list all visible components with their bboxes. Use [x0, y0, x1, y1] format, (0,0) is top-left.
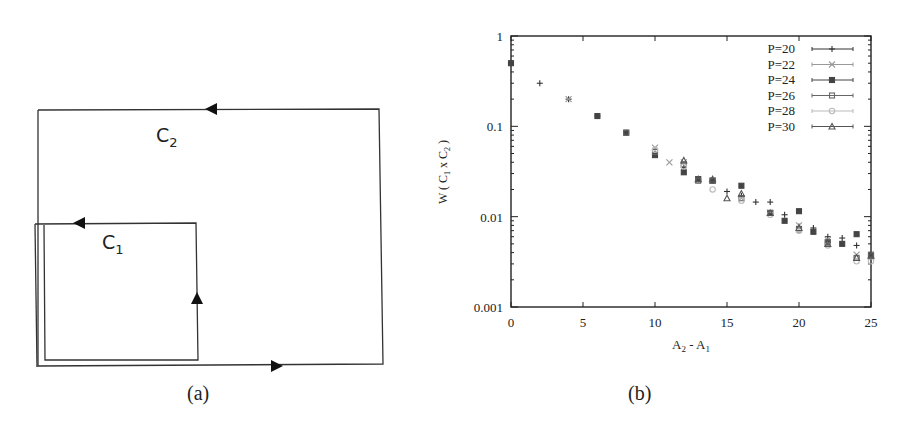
y-tick-label: 1 [497, 29, 504, 44]
svg-text:P=20: P=20 [767, 41, 795, 56]
x-tick-label: 0 [508, 315, 515, 330]
legend-entry: P=28 [767, 103, 853, 118]
svg-text:P=22: P=22 [767, 57, 795, 72]
scatter-chart: 05101520250.0010.010.11A2 - A1W ( C1 x C… [0, 0, 907, 425]
plot-frame [511, 36, 871, 307]
y-tick-label: 0.01 [480, 210, 503, 225]
legend-entry: P=26 [767, 88, 853, 103]
legend-entry: P=30 [767, 119, 853, 134]
x-tick-label: 15 [721, 315, 734, 330]
y-tick-label: 0.1 [487, 119, 503, 134]
y-axis-label: W ( C1 x C2 ) [436, 140, 452, 204]
svg-text:P=26: P=26 [767, 88, 795, 103]
legend-entry: P=24 [767, 72, 853, 87]
series-p-20 [508, 60, 874, 257]
x-tick-label: 5 [580, 315, 587, 330]
legend-entry: P=22 [767, 57, 853, 72]
svg-text:P=30: P=30 [767, 119, 795, 134]
x-tick-label: 25 [865, 315, 878, 330]
y-tick-label: 0.001 [474, 300, 503, 315]
figure: C2 C1 (a) (b) 05101520250.0010.010.11A2 … [0, 0, 907, 425]
svg-text:P=24: P=24 [767, 72, 795, 87]
x-axis-label: A2 - A1 [672, 337, 710, 354]
series-p-26 [624, 130, 874, 260]
svg-text:P=28: P=28 [767, 103, 795, 118]
x-tick-label: 20 [793, 315, 806, 330]
legend-entry: P=20 [767, 41, 853, 56]
x-tick-label: 10 [649, 315, 662, 330]
series-p-24 [509, 61, 874, 258]
